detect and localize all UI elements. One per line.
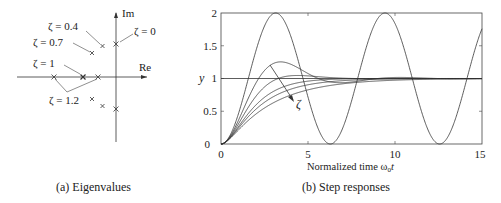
label-zeta-1: ζ = 1 xyxy=(33,57,55,70)
pole-marker xyxy=(101,44,105,48)
eigenvalue-plot xyxy=(17,12,147,142)
zeta-arrow xyxy=(270,65,293,100)
y-axis-label: y xyxy=(198,71,205,85)
step-curve-zeta-0.7 xyxy=(221,75,482,144)
xtick-15: 15 xyxy=(475,148,487,160)
pole-marker xyxy=(90,51,94,55)
step-response-plot: ζ y 0 0.5 1 1.5 2 0 5 10 15 Normalized t… xyxy=(198,7,486,174)
label-zeta-0: ζ = 0 xyxy=(134,25,156,38)
xtick-10: 10 xyxy=(390,148,402,160)
label-zeta-0.7: ζ = 0.7 xyxy=(33,36,64,49)
label-zeta-1.2: ζ = 1.2 xyxy=(49,94,79,107)
caption-a: (a) Eigenvalues xyxy=(56,180,131,195)
im-axis-arrow-icon xyxy=(114,12,118,18)
ytick-0: 0 xyxy=(205,138,211,150)
step-curve-zeta-0.4 xyxy=(221,62,482,144)
ytick-1: 1 xyxy=(212,72,218,84)
re-axis-arrow-icon xyxy=(141,75,147,79)
zeta-label: ζ xyxy=(296,97,302,111)
figure-canvas: Im Re ζ = 0.4 ζ = 0.7 ζ = 0 ζ = 1 ζ = 1.… xyxy=(0,0,501,203)
x-axis-label: Normalized time ω0t xyxy=(307,161,395,174)
re-axis-label: Re xyxy=(139,61,151,73)
label-zeta-0.4: ζ = 0.4 xyxy=(48,20,79,33)
ytick-1.5: 1.5 xyxy=(203,40,217,52)
ytick-0.5: 0.5 xyxy=(203,105,217,117)
caption-b: (b) Step responses xyxy=(302,180,390,195)
pole-marker xyxy=(101,104,105,108)
xtick-0: 0 xyxy=(218,148,224,160)
ytick-2: 2 xyxy=(212,7,218,19)
im-axis-label: Im xyxy=(122,7,135,19)
pole-marker xyxy=(90,97,94,101)
step-curve-zeta-1.5 xyxy=(221,79,482,144)
xtick-5: 5 xyxy=(305,148,311,160)
annotation-leaders xyxy=(55,31,133,92)
